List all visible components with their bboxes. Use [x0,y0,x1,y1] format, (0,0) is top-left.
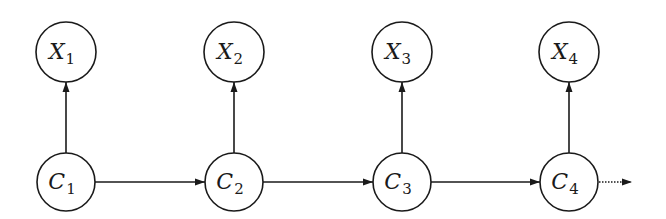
graphical-model-diagram: X1X2X3X4C1C2C3C4 [0,0,666,219]
node-c1: C1 [37,153,95,211]
node-subscript: 4 [569,50,579,68]
node-letter: X [47,39,66,64]
node-subscript: 1 [66,50,76,68]
node-letter: C [551,169,568,194]
node-letter: X [215,39,234,64]
node-x2: X2 [204,22,264,82]
node-subscript: 2 [234,50,244,68]
node-letter: C [48,169,65,194]
node-letter: C [216,169,233,194]
node-x3: X3 [372,22,432,82]
node-c3: C3 [373,153,431,211]
node-subscript: 3 [402,50,412,68]
node-x4: X4 [539,22,599,82]
node-subscript: 2 [234,180,244,198]
node-subscript: 3 [402,180,412,198]
node-letter: X [383,39,402,64]
node-letter: X [550,39,569,64]
node-letter: C [384,169,401,194]
node-c2: C2 [205,153,263,211]
node-c4: C4 [540,153,598,211]
node-subscript: 1 [66,180,76,198]
node-subscript: 4 [569,180,579,198]
node-x1: X1 [36,22,96,82]
